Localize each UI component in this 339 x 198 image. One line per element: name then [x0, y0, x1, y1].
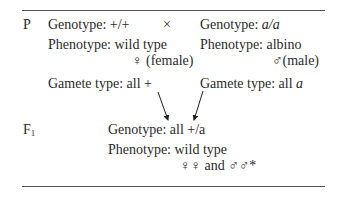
arrow-male-icon [194, 91, 203, 120]
gamete-arrows [0, 0, 339, 198]
f1-phenotype: Phenotype: wild type [108, 142, 227, 158]
arrow-female-icon [158, 92, 168, 120]
f1-genotype: Genotype: all +/a [108, 122, 205, 138]
f1-generation-label: F1 [23, 122, 35, 141]
bottom-rule [22, 186, 325, 187]
f1-sexes: ♀♀ and ♂♂* [180, 158, 256, 174]
